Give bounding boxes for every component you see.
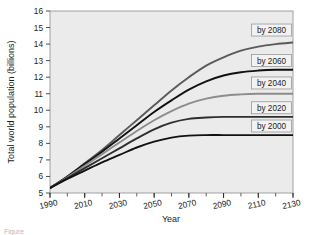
y-tick-label: 15 bbox=[34, 23, 44, 33]
y-axis-ticks bbox=[46, 11, 50, 193]
y-tick-label: 12 bbox=[34, 72, 44, 82]
x-tick-label: 2030 bbox=[108, 197, 129, 211]
x-tick-label: 2050 bbox=[142, 197, 163, 211]
x-tick-label: 2070 bbox=[177, 197, 198, 211]
figure-container: 5678910111213141516 19902010203020502070… bbox=[0, 0, 314, 235]
x-axis-title: Year bbox=[162, 214, 180, 224]
series-label: by 2000 bbox=[257, 122, 287, 131]
y-tick-label: 13 bbox=[34, 56, 44, 66]
series-label: by 2080 bbox=[257, 26, 287, 35]
y-tick-label: 7 bbox=[38, 155, 43, 165]
series-label: by 2060 bbox=[257, 57, 287, 66]
y-tick-label: 14 bbox=[34, 39, 44, 49]
y-tick-label: 8 bbox=[38, 138, 43, 148]
y-tick-label: 6 bbox=[38, 171, 43, 181]
y-axis-title: Total world population (billions) bbox=[6, 40, 16, 163]
x-axis-tick-labels: 19902010203020502070209021102130 bbox=[38, 197, 302, 211]
y-tick-label: 10 bbox=[34, 105, 44, 115]
y-tick-label: 16 bbox=[34, 6, 44, 16]
y-tick-label: 11 bbox=[34, 89, 43, 99]
series-label: by 2020 bbox=[257, 104, 287, 113]
figure-caption-fragment: Figure bbox=[4, 228, 24, 235]
x-tick-label: 2010 bbox=[73, 197, 94, 211]
x-tick-label: 2110 bbox=[247, 197, 267, 211]
x-axis-minor-ticks bbox=[50, 193, 293, 197]
x-tick-label: 1990 bbox=[38, 197, 59, 211]
x-tick-label: 2130 bbox=[281, 197, 302, 211]
y-axis-tick-labels: 5678910111213141516 bbox=[34, 6, 44, 198]
y-tick-label: 5 bbox=[38, 188, 43, 198]
population-projection-chart: 5678910111213141516 19902010203020502070… bbox=[0, 0, 314, 235]
x-tick-label: 2090 bbox=[212, 197, 233, 211]
y-tick-label: 9 bbox=[38, 122, 43, 132]
series-label: by 2040 bbox=[257, 79, 287, 88]
